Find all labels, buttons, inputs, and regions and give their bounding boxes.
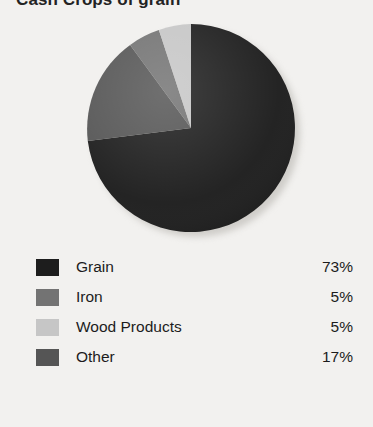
legend-value-iron: 5% bbox=[331, 289, 353, 305]
page-title: Cash Crops of grain bbox=[0, 0, 373, 10]
legend-swatch-other bbox=[36, 349, 59, 366]
legend-row-grain: Grain 73% bbox=[0, 252, 373, 282]
legend-value-wood-products: 5% bbox=[331, 319, 353, 335]
legend-row-other: Other 17% bbox=[0, 342, 373, 372]
pie-chart bbox=[0, 12, 373, 244]
pie-slices-svg bbox=[87, 24, 295, 232]
page-title-text: Cash Crops of grain bbox=[16, 0, 180, 10]
pie-graphic bbox=[87, 24, 295, 232]
legend-swatch-wood-products bbox=[36, 319, 59, 336]
legend: Grain 73% Iron 5% Wood Products 5% Other… bbox=[0, 252, 373, 372]
legend-swatch-grain bbox=[36, 259, 59, 276]
legend-label-wood-products: Wood Products bbox=[76, 319, 331, 335]
legend-row-wood-products: Wood Products 5% bbox=[0, 312, 373, 342]
legend-swatch-iron bbox=[36, 289, 59, 306]
pie-shading-overlay bbox=[87, 24, 295, 232]
legend-value-other: 17% bbox=[322, 349, 353, 365]
legend-label-other: Other bbox=[76, 349, 322, 365]
legend-label-grain: Grain bbox=[76, 259, 322, 275]
legend-row-iron: Iron 5% bbox=[0, 282, 373, 312]
legend-value-grain: 73% bbox=[322, 259, 353, 275]
legend-label-iron: Iron bbox=[76, 289, 331, 305]
